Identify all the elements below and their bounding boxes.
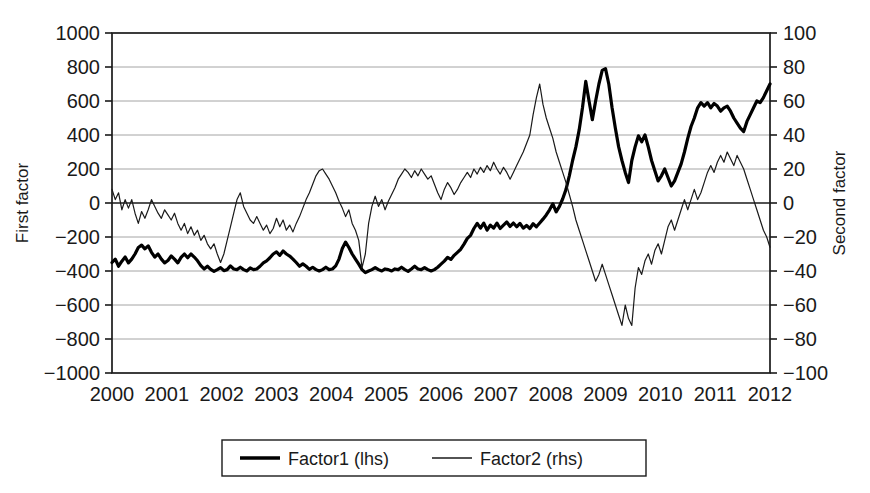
x-tick-label-2001: 2001 [145, 383, 190, 405]
y-tick-label-400: 400 [67, 124, 100, 146]
x-tick-label-2004: 2004 [309, 383, 354, 405]
legend-label-factor2: Factor2 (rhs) [480, 449, 583, 469]
y2-tick-label-100: 100 [783, 22, 816, 44]
y2-tick-label-20: 20 [783, 158, 805, 180]
chart-figure: 10008006004002000−200−400−600−800−100010… [0, 0, 870, 493]
y-tick-label--200: −200 [55, 226, 100, 248]
y-tick-label-200: 200 [67, 158, 100, 180]
y2-tick-label-80: 80 [783, 56, 805, 78]
y2-tick-label--40: −40 [783, 260, 817, 282]
y2-tick-label--100: −100 [783, 362, 828, 384]
y-tick-label--600: −600 [55, 294, 100, 316]
chart-background [0, 0, 870, 493]
y-tick-label--1000: −1000 [44, 362, 100, 384]
x-tick-label-2005: 2005 [364, 383, 409, 405]
x-tick-label-2008: 2008 [528, 383, 573, 405]
y-tick-label-600: 600 [67, 90, 100, 112]
y-tick-label-0: 0 [89, 192, 100, 214]
y2-tick-label--20: −20 [783, 226, 817, 248]
x-tick-label-2011: 2011 [694, 383, 737, 405]
legend-label-factor1: Factor1 (lhs) [288, 449, 389, 469]
y2-tick-label-40: 40 [783, 124, 805, 146]
y-tick-label--800: −800 [55, 328, 100, 350]
y-tick-label-800: 800 [67, 56, 100, 78]
x-tick-label-2002: 2002 [199, 383, 244, 405]
x-tick-label-2007: 2007 [474, 383, 519, 405]
y2-tick-label-0: 0 [783, 192, 794, 214]
y2-tick-label--60: −60 [783, 294, 817, 316]
x-tick-label-2000: 2000 [90, 383, 135, 405]
chart-canvas: 10008006004002000−200−400−600−800−100010… [0, 0, 870, 493]
x-tick-label-2012: 2012 [748, 383, 793, 405]
y2-tick-label-60: 60 [783, 90, 805, 112]
x-tick-label-2010: 2010 [638, 383, 683, 405]
x-tick-label-2009: 2009 [583, 383, 628, 405]
chart-legend: Factor1 (lhs) Factor2 (rhs) [222, 440, 646, 476]
left-axis-title: First factor [13, 163, 32, 244]
y-tick-label-1000: 1000 [56, 22, 101, 44]
right-axis-title: Second factor [830, 150, 849, 255]
y2-tick-label--80: −80 [783, 328, 817, 350]
x-tick-label-2003: 2003 [254, 383, 299, 405]
y-tick-label--400: −400 [55, 260, 100, 282]
x-tick-label-2006: 2006 [419, 383, 464, 405]
